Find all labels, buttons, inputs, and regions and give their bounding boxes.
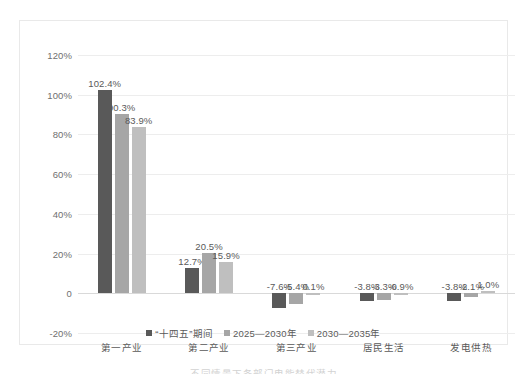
y-axis-tick-label: 20% bbox=[53, 248, 72, 259]
bar[interactable] bbox=[447, 293, 461, 301]
y-axis-tick-label: 100% bbox=[47, 89, 72, 100]
chart-legend: “十四五”期间2025—2030年2030—2035年 bbox=[0, 326, 527, 340]
x-axis-tick-label: 第三产业 bbox=[276, 340, 318, 354]
bar-group: -3.8%-3.3%-0.9%居民生活 bbox=[340, 55, 427, 333]
bars-row: -7.6%-5.4%0.1% bbox=[253, 55, 340, 333]
figure-caption: 不同情景下各部门电能替代潜力 bbox=[0, 366, 527, 374]
x-axis-tick-label: 居民生活 bbox=[363, 340, 405, 354]
x-axis-tick-label: 第一产业 bbox=[101, 340, 143, 354]
bar-group: -7.6%-5.4%0.1%第三产业 bbox=[253, 55, 340, 333]
y-axis-tick-label: 0 bbox=[67, 288, 72, 299]
bars-row: 102.4%90.3%83.9% bbox=[78, 55, 165, 333]
bar[interactable] bbox=[289, 293, 303, 304]
y-axis-tick-label: 120% bbox=[47, 50, 72, 61]
bar-value-label: 90.3% bbox=[108, 102, 135, 113]
y-axis-tick-label: 40% bbox=[53, 208, 72, 219]
legend-item[interactable]: 2025—2030年 bbox=[224, 326, 297, 340]
legend-item[interactable]: 2030—2035年 bbox=[308, 326, 381, 340]
legend-item-label: 2025—2030年 bbox=[233, 326, 297, 340]
legend-item-label: “十四五”期间 bbox=[155, 326, 213, 340]
bar[interactable] bbox=[306, 293, 320, 295]
legend-swatch-icon bbox=[224, 330, 230, 336]
x-axis-tick-label: 发电供热 bbox=[450, 340, 492, 354]
bar[interactable] bbox=[132, 127, 146, 294]
y-axis-tick-label: 80% bbox=[53, 129, 72, 140]
bar[interactable] bbox=[377, 293, 391, 300]
x-axis-tick-label: 第二产业 bbox=[188, 340, 230, 354]
legend-item-label: 2030—2035年 bbox=[317, 326, 381, 340]
legend-item[interactable]: “十四五”期间 bbox=[146, 326, 213, 340]
bar[interactable] bbox=[360, 293, 374, 301]
bar-value-label: 15.9% bbox=[212, 250, 239, 261]
plot-area: 120%100%80%60%40%20%0-20%102.4%90.3%83.9… bbox=[78, 55, 515, 333]
bar[interactable] bbox=[464, 293, 478, 297]
bar-group: 102.4%90.3%83.9%第一产业 bbox=[78, 55, 165, 333]
bar-value-label: 83.9% bbox=[125, 115, 152, 126]
bar-value-label: 1.0% bbox=[477, 279, 499, 290]
legend-swatch-icon bbox=[308, 330, 314, 336]
bar[interactable] bbox=[481, 291, 495, 293]
y-axis-tick-label: 60% bbox=[53, 169, 72, 180]
bar[interactable] bbox=[394, 293, 408, 295]
bar[interactable] bbox=[272, 293, 286, 308]
bar[interactable] bbox=[185, 268, 199, 293]
bar-value-label: 0.1% bbox=[302, 281, 324, 292]
bars-row: -3.8%-3.3%-0.9% bbox=[340, 55, 427, 333]
legend-swatch-icon bbox=[146, 330, 152, 336]
bar-value-label: -0.9% bbox=[388, 281, 413, 292]
chart-figure: 120%100%80%60%40%20%0-20%102.4%90.3%83.9… bbox=[0, 0, 527, 374]
bar[interactable] bbox=[219, 262, 233, 294]
bar-value-label: 102.4% bbox=[88, 78, 121, 89]
bars-row: -3.8%-2.1%1.0% bbox=[428, 55, 515, 333]
bar-group: 12.7%20.5%15.9%第二产业 bbox=[165, 55, 252, 333]
bar[interactable] bbox=[98, 90, 112, 293]
bars-row: 12.7%20.5%15.9% bbox=[165, 55, 252, 333]
chart-frame: 120%100%80%60%40%20%0-20%102.4%90.3%83.9… bbox=[19, 20, 508, 345]
bar-group: -3.8%-2.1%1.0%发电供热 bbox=[428, 55, 515, 333]
bar[interactable] bbox=[115, 114, 129, 293]
